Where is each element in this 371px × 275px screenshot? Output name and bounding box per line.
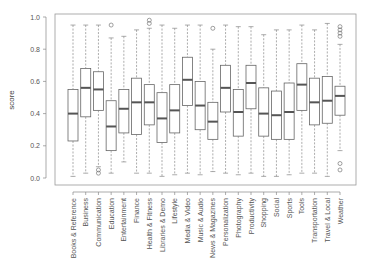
x-tick-label: Social (273, 198, 280, 218)
y-tick-label: 0.4 (30, 110, 40, 117)
box-21 (335, 25, 345, 172)
x-tick-label: Productivity (248, 198, 256, 235)
box-16 (271, 30, 281, 177)
box-0 (68, 25, 78, 176)
y-tick-label: 0.8 (30, 46, 40, 53)
box-20 (322, 23, 332, 176)
x-tick-label: Sports (286, 198, 294, 219)
x-tick-label: Shopping (260, 198, 268, 228)
outlier-point (338, 162, 342, 166)
outlier-point (338, 168, 342, 172)
y-tick-label: 1.0 (30, 14, 40, 21)
box-17 (284, 30, 294, 175)
outlier-point (109, 23, 113, 27)
box-series (68, 18, 345, 176)
box-14 (246, 27, 256, 174)
box-18 (297, 25, 307, 173)
x-tick-label: Tools (298, 198, 305, 215)
y-axis: 0.00.20.40.60.81.0 (30, 14, 46, 182)
x-tick-label: Communication (95, 198, 102, 247)
box-4 (119, 36, 129, 162)
box-10 (195, 25, 205, 175)
x-tick-label: Books & Reference (70, 198, 77, 258)
x-tick-label: Personalization (222, 198, 229, 246)
x-tick-label: Lifestyle (171, 198, 179, 224)
outlier-point (211, 26, 215, 30)
box-19 (310, 30, 320, 173)
x-axis: Books & ReferenceBusinessCommunicationEd… (70, 192, 344, 258)
y-tick-label: 0.0 (30, 175, 40, 182)
box-15 (259, 35, 269, 177)
x-tick-label: Education (108, 198, 115, 229)
box-6 (144, 18, 154, 173)
x-tick-label: Health & Fitness (146, 198, 153, 250)
box-5 (132, 30, 142, 173)
y-axis-title: score (7, 90, 16, 110)
x-tick-label: News & Magazines (209, 198, 217, 258)
y-tick-label: 0.6 (30, 78, 40, 85)
x-tick-label: Finance (133, 198, 140, 223)
box-12 (221, 25, 231, 173)
box-11 (208, 26, 218, 171)
x-tick-label: Entertainment (120, 198, 127, 242)
box-1 (81, 25, 91, 173)
box-13 (233, 27, 243, 175)
x-tick-label: Libraries & Demo (159, 198, 166, 252)
y-tick-label: 0.2 (30, 142, 40, 149)
x-tick-label: Weather (337, 197, 344, 224)
box-8 (170, 28, 180, 175)
box-2 (93, 25, 103, 175)
x-tick-label: Music & Audio (197, 198, 204, 242)
x-tick-label: Transportation (311, 198, 319, 243)
x-tick-label: Business (82, 198, 89, 227)
box-9 (182, 25, 192, 173)
boxplot-chart: 0.00.20.40.60.81.0 Books & ReferenceBusi… (0, 0, 371, 275)
box-3 (106, 23, 116, 173)
box-7 (157, 25, 167, 176)
x-tick-label: Photography (235, 198, 243, 238)
x-tick-label: Travel & Local (324, 198, 331, 243)
x-tick-label: Media & Video (184, 198, 191, 244)
